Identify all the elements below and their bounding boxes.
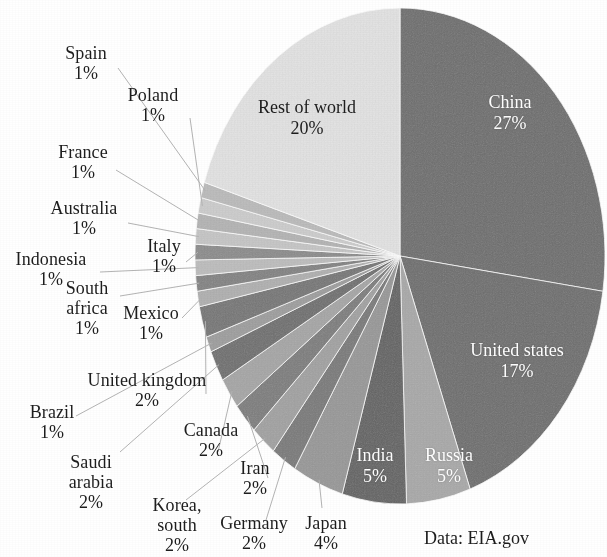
slice-pct-mexico: 1% (108, 323, 194, 343)
slice-name-australia: Australia (51, 198, 118, 218)
slice-label-russia: Russia 5% (410, 445, 488, 486)
slice-label-iran: Iran 2% (224, 458, 286, 498)
slice-name-france: France (58, 142, 108, 162)
slice-label-united-states: United states 17% (442, 340, 592, 381)
pie-slices-group (195, 8, 605, 504)
pie-chart-figure: China 27% United states 17% Russia 5% In… (0, 0, 607, 557)
slice-pct-italy: 1% (132, 256, 196, 276)
slice-label-poland: Poland 1% (108, 85, 198, 125)
slice-name-brazil: Brazil (30, 402, 75, 422)
slice-label-germany: Germany 2% (205, 513, 303, 553)
slice-pct-china: 27% (455, 113, 565, 134)
slice-name-mexico: Mexico (123, 303, 179, 323)
slice-pct-france: 1% (38, 162, 128, 182)
slice-label-italy: Italy 1% (132, 236, 196, 276)
slice-name-iran: Iran (240, 458, 269, 478)
slice-label-canada: Canada 2% (166, 420, 256, 460)
slice-label-spain: Spain 1% (46, 43, 126, 83)
slice-name-italy: Italy (147, 236, 181, 256)
pie-slice-china (400, 8, 605, 291)
slice-label-australia: Australia 1% (32, 198, 136, 238)
slice-pct-united-states: 17% (442, 361, 592, 382)
slice-pct-germany: 2% (205, 533, 303, 553)
slice-name-rest-of-world: Rest of world (258, 97, 356, 117)
slice-label-mexico: Mexico 1% (108, 303, 194, 343)
data-source-note: Data: EIA.gov (424, 528, 529, 549)
slice-pct-iran: 2% (224, 478, 286, 498)
slice-pct-japan: 4% (292, 533, 360, 553)
slice-name-germany: Germany (220, 513, 288, 533)
slice-name-united-states: United states (470, 340, 563, 360)
slice-pct-rest-of-world: 20% (232, 118, 382, 139)
slice-label-rest-of-world: Rest of world 20% (232, 97, 382, 138)
slice-name-spain: Spain (65, 43, 107, 63)
slice-name-poland: Poland (128, 85, 179, 105)
slice-name-canada: Canada (184, 420, 239, 440)
slice-label-china: China 27% (455, 92, 565, 133)
slice-label-saudi-arabia: Saudi arabia 2% (52, 452, 130, 512)
leader-line-australia (128, 223, 199, 237)
slice-pct-russia: 5% (410, 466, 488, 487)
slice-name-south-africa-line1: South (48, 278, 126, 298)
slice-pct-brazil: 1% (16, 422, 88, 442)
leader-line-south-africa (120, 283, 199, 296)
slice-label-india: India 5% (340, 445, 410, 486)
slice-name-japan: Japan (305, 513, 346, 533)
slice-name-saudi-arabia-line1: Saudi (52, 452, 130, 472)
slice-name-indonesia: Indonesia (16, 249, 87, 269)
slice-name-india: India (357, 445, 394, 465)
slice-pct-india: 5% (340, 466, 410, 487)
slice-name-united-kingdom: United kingdom (88, 370, 207, 390)
leader-line-poland (190, 118, 202, 206)
slice-name-china: China (489, 92, 532, 112)
slice-label-brazil: Brazil 1% (16, 402, 88, 442)
slice-pct-spain: 1% (46, 63, 126, 83)
slice-name-russia: Russia (425, 445, 473, 465)
slice-label-japan: Japan 4% (292, 513, 360, 553)
slice-label-france: France 1% (38, 142, 128, 182)
slice-pct-saudi-arabia: 2% (52, 492, 130, 512)
slice-pct-australia: 1% (32, 218, 136, 238)
slice-pct-poland: 1% (108, 105, 198, 125)
slice-name-saudi-arabia-line2: arabia (52, 472, 130, 492)
